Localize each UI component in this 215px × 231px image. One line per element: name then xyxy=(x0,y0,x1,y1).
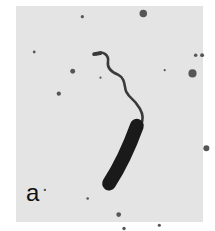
bacterial-cell xyxy=(109,126,137,184)
particles xyxy=(33,10,215,230)
panel-label: a xyxy=(26,181,39,205)
micrograph-image xyxy=(16,6,215,231)
flagellum xyxy=(96,53,142,122)
micrograph-panel xyxy=(16,6,203,222)
